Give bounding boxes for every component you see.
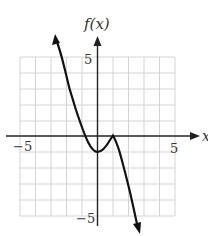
y-axis-arrow-icon <box>94 36 102 46</box>
curve-left-arrow-icon <box>52 34 60 45</box>
curve <box>52 34 141 234</box>
x-axis-label: x <box>202 128 208 144</box>
function-graph: f(x) x 5 −5 −5 5 <box>0 0 208 236</box>
y-axis-label: f(x) <box>83 15 110 33</box>
curve-right-arrow-icon <box>133 222 141 234</box>
y-tick-min: −5 <box>76 211 95 226</box>
y-tick-max: 5 <box>84 52 92 67</box>
x-tick-max: 5 <box>170 141 178 156</box>
x-tick-min: −5 <box>13 139 32 154</box>
x-axis-arrow-icon <box>190 132 200 140</box>
